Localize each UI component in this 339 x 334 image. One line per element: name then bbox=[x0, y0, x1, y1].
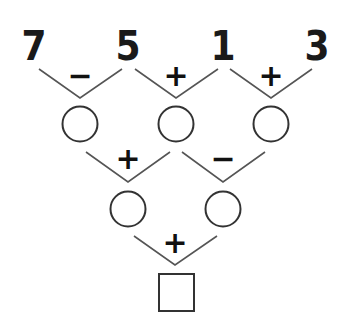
number-pyramid-diagram: 7 5 1 3 − + + + − + bbox=[0, 0, 339, 334]
top-number-4: 3 bbox=[304, 23, 329, 69]
top-number-1: 7 bbox=[21, 23, 46, 69]
operator-plus: + bbox=[115, 141, 140, 176]
top-number-2: 5 bbox=[115, 23, 140, 69]
operator-minus: − bbox=[67, 58, 92, 93]
operator-plus: + bbox=[258, 58, 283, 93]
answer-circle-2-2[interactable] bbox=[159, 107, 194, 142]
final-answer-box[interactable] bbox=[159, 274, 194, 311]
answer-circle-3-1[interactable] bbox=[111, 192, 146, 227]
answer-circle-2-3[interactable] bbox=[254, 107, 289, 142]
answer-circle-2-1[interactable] bbox=[63, 107, 98, 142]
operator-plus: + bbox=[163, 58, 188, 93]
operator-plus: + bbox=[162, 225, 187, 260]
top-number-3: 1 bbox=[210, 23, 235, 69]
answer-circle-3-2[interactable] bbox=[206, 192, 241, 227]
operator-minus: − bbox=[210, 141, 235, 176]
